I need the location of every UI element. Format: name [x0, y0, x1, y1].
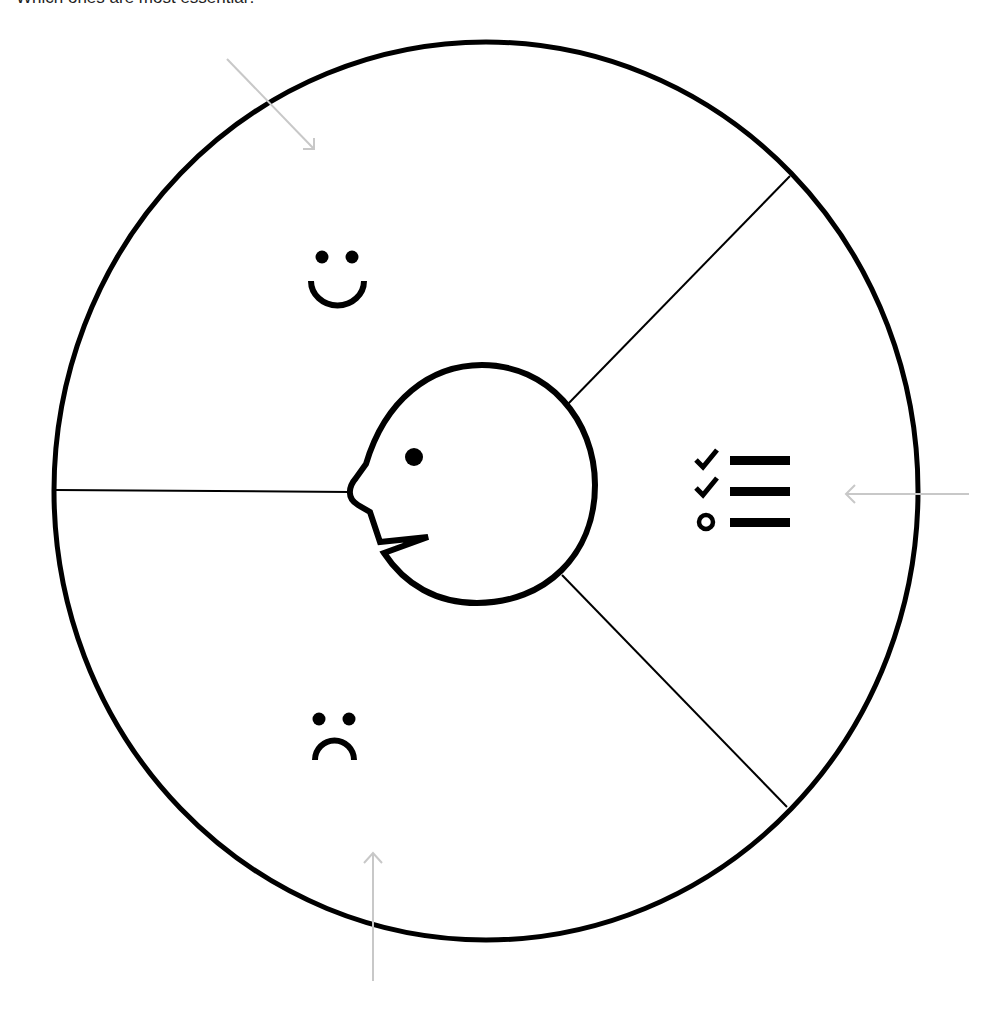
divider-left	[56, 490, 350, 492]
arrow-to-frown-icon	[364, 853, 382, 981]
divider-upper-right	[567, 176, 790, 405]
divider-lower-right	[562, 575, 787, 807]
checklist-icon	[696, 450, 790, 529]
frowning-face-icon	[313, 713, 356, 761]
arrow-to-checklist-icon	[846, 485, 969, 503]
arrow-to-smiley-icon	[227, 59, 314, 149]
customer-profile-diagram	[0, 0, 991, 1014]
smiley-face-icon	[311, 251, 364, 306]
speaking-head-icon	[350, 365, 595, 603]
